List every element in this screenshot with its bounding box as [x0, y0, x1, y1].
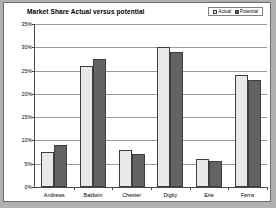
y-axis-tick-label: 20%: [22, 91, 32, 97]
x-axis-category-label: Andrews: [44, 192, 65, 198]
bar-potential-ferris: [248, 80, 261, 187]
y-axis-tick-label: 25%: [22, 68, 32, 74]
bar-potential-baldwin: [93, 59, 106, 187]
x-axis-category-label: Chester: [122, 192, 141, 198]
bar-potential-digby: [170, 52, 183, 187]
y-axis-tick-label: 10%: [22, 137, 32, 143]
x-axis-tick-mark: [112, 187, 113, 190]
bar-group: [74, 24, 113, 187]
y-axis-tick-label: 30%: [22, 44, 32, 50]
x-axis-tick-mark: [190, 187, 191, 190]
x-axis-tick-mark: [74, 187, 75, 190]
y-axis-tick-label: 0%: [25, 184, 33, 190]
y-axis-tick-label: 5%: [25, 161, 33, 167]
bar-actual-ferris: [235, 75, 248, 187]
bar-series-layer: [35, 24, 267, 187]
legend-label-actual: Actual: [218, 9, 231, 14]
bar-group: [151, 24, 190, 187]
bar-group: [35, 24, 74, 187]
x-axis-tick-mark: [228, 187, 229, 190]
y-axis-tick-label: 15%: [22, 114, 32, 120]
bar-group: [190, 24, 229, 187]
x-axis-category-label: Baldwin: [84, 192, 103, 198]
y-axis-tick-label: 35%: [22, 21, 32, 27]
bar-group: [112, 24, 151, 187]
bar-potential-erie: [209, 161, 222, 187]
chart-legend: Actual Potential: [208, 7, 263, 16]
bar-actual-chester: [119, 150, 132, 187]
plot-area: 0%5%10%15%20%25%30%35% AndrewsBaldwinChe…: [34, 24, 267, 188]
bar-potential-andrews: [54, 145, 67, 187]
legend-swatch-actual-icon: [213, 10, 217, 14]
legend-swatch-potential-icon: [235, 10, 239, 14]
chart-container: Market Share Actual versus potential Act…: [3, 2, 271, 202]
bar-actual-erie: [196, 159, 209, 187]
legend-label-potential: Potential: [240, 9, 258, 14]
legend-entry-actual: Actual: [213, 9, 231, 14]
chart-title: Market Share Actual versus potential: [27, 8, 145, 15]
x-axis-tick-mark: [267, 187, 268, 190]
x-axis-category-label: Erie: [204, 192, 214, 198]
bar-actual-digby: [157, 47, 170, 187]
x-axis-category-label: Ferris: [241, 192, 255, 198]
x-axis-tick-mark: [151, 187, 152, 190]
x-axis-category-label: Digby: [163, 192, 177, 198]
bar-potential-chester: [132, 154, 145, 187]
legend-entry-potential: Potential: [235, 9, 258, 14]
bar-actual-andrews: [41, 152, 54, 187]
bar-group: [228, 24, 267, 187]
bar-actual-baldwin: [80, 66, 93, 187]
